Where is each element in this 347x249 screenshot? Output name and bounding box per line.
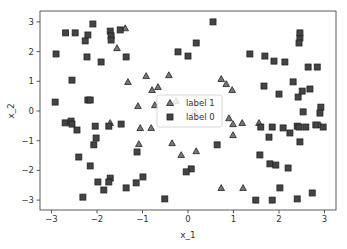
data-point-label-0 bbox=[72, 30, 78, 36]
x-tick-label: 1 bbox=[231, 214, 236, 224]
data-point-label-0 bbox=[294, 196, 300, 202]
data-point-label-0 bbox=[280, 125, 286, 131]
x-tick-label: 0 bbox=[185, 214, 190, 224]
data-point-label-0 bbox=[314, 64, 320, 70]
x-axis-label: x_1 bbox=[180, 230, 196, 240]
data-point-label-0 bbox=[297, 30, 303, 36]
data-point-label-0 bbox=[140, 174, 146, 180]
data-point-label-0 bbox=[273, 162, 279, 168]
data-point-label-0 bbox=[123, 54, 129, 60]
x-tick-label: −2 bbox=[91, 214, 104, 224]
y-axis-label: x_2 bbox=[6, 103, 16, 119]
data-point-label-0 bbox=[277, 185, 283, 191]
data-point-label-0 bbox=[84, 54, 90, 60]
data-point-label-0 bbox=[269, 197, 275, 203]
data-point-label-0 bbox=[300, 109, 306, 115]
data-point-label-0 bbox=[317, 110, 323, 116]
data-point-label-0 bbox=[309, 190, 315, 196]
data-point-label-0 bbox=[193, 40, 199, 46]
data-point-label-0 bbox=[91, 142, 97, 148]
data-point-label-0 bbox=[296, 124, 302, 130]
data-point-label-0 bbox=[106, 179, 112, 185]
x-tick-label: −1 bbox=[136, 214, 149, 224]
data-point-label-0 bbox=[271, 58, 277, 64]
data-point-label-0 bbox=[95, 179, 101, 185]
y-tick-label: 2 bbox=[29, 47, 34, 57]
data-point-label-0 bbox=[257, 152, 263, 158]
data-point-label-0 bbox=[76, 154, 82, 160]
legend: label 1 label 0 bbox=[157, 95, 222, 127]
data-point-label-0 bbox=[175, 49, 181, 55]
data-point-label-0 bbox=[101, 187, 107, 193]
data-point-label-0 bbox=[162, 196, 168, 202]
data-point-label-0 bbox=[69, 77, 75, 83]
data-point-label-0 bbox=[134, 149, 140, 155]
data-point-label-0 bbox=[93, 135, 99, 141]
data-point-label-0 bbox=[87, 97, 93, 103]
data-point-label-0 bbox=[290, 79, 296, 85]
data-point-label-0 bbox=[258, 124, 264, 130]
data-point-label-0 bbox=[52, 99, 58, 105]
data-point-label-0 bbox=[53, 51, 59, 57]
data-point-label-0 bbox=[318, 104, 324, 110]
data-point-label-0 bbox=[307, 86, 313, 92]
legend-label: label 1 bbox=[186, 98, 215, 108]
square-marker-icon bbox=[167, 114, 173, 120]
data-point-label-0 bbox=[287, 130, 293, 136]
data-point-label-0 bbox=[98, 59, 104, 65]
data-point-label-0 bbox=[299, 88, 305, 94]
data-point-label-0 bbox=[85, 32, 91, 38]
data-point-label-0 bbox=[295, 94, 301, 100]
data-point-label-0 bbox=[106, 123, 112, 129]
data-point-label-0 bbox=[183, 169, 189, 175]
data-point-label-0 bbox=[320, 124, 326, 130]
x-tick-label: 3 bbox=[322, 214, 327, 224]
data-point-label-0 bbox=[303, 124, 309, 130]
data-point-label-0 bbox=[123, 185, 129, 191]
data-point-label-0 bbox=[133, 180, 139, 186]
data-point-label-0 bbox=[266, 134, 272, 140]
data-point-label-0 bbox=[74, 127, 80, 133]
data-point-label-0 bbox=[305, 64, 311, 70]
data-point-label-0 bbox=[117, 27, 123, 33]
data-point-label-0 bbox=[90, 21, 96, 27]
data-point-label-0 bbox=[185, 53, 191, 59]
data-point-label-0 bbox=[118, 121, 124, 127]
data-point-label-0 bbox=[80, 194, 86, 200]
y-tick-label: −2 bbox=[21, 165, 34, 175]
data-point-label-0 bbox=[285, 165, 291, 171]
y-tick-label: −3 bbox=[21, 195, 34, 205]
data-point-label-0 bbox=[82, 38, 88, 44]
legend-label: label 0 bbox=[186, 112, 215, 122]
data-point-label-0 bbox=[253, 197, 259, 203]
data-point-label-0 bbox=[108, 37, 114, 43]
data-point-label-0 bbox=[262, 53, 268, 59]
data-point-label-0 bbox=[282, 59, 288, 65]
y-tick-label: 3 bbox=[29, 17, 34, 27]
x-tick-label: −3 bbox=[45, 214, 58, 224]
data-point-label-0 bbox=[261, 83, 267, 89]
y-tick-label: 1 bbox=[29, 76, 34, 86]
data-point-label-0 bbox=[296, 40, 302, 46]
x-tick-label: 2 bbox=[276, 214, 281, 224]
scatter-chart: −3−2−10123 −3−2−10123 x_1 x_2 label 1 la… bbox=[0, 0, 347, 249]
data-point-label-0 bbox=[276, 91, 282, 97]
x-axis: −3−2−10123 bbox=[45, 210, 327, 224]
y-axis: −3−2−10123 bbox=[21, 17, 40, 205]
data-point-label-0 bbox=[62, 120, 68, 126]
data-point-label-0 bbox=[87, 163, 93, 169]
data-point-label-0 bbox=[313, 122, 319, 128]
data-point-label-0 bbox=[63, 30, 69, 36]
data-point-label-0 bbox=[214, 142, 220, 148]
data-point-label-0 bbox=[297, 139, 303, 145]
data-point-label-0 bbox=[92, 123, 98, 129]
data-point-label-0 bbox=[247, 51, 253, 57]
y-tick-label: 0 bbox=[29, 106, 34, 116]
data-point-label-0 bbox=[269, 124, 275, 130]
data-point-label-0 bbox=[210, 19, 216, 25]
y-tick-label: −1 bbox=[21, 136, 34, 146]
data-point-label-0 bbox=[69, 121, 75, 127]
data-point-label-0 bbox=[267, 161, 273, 167]
